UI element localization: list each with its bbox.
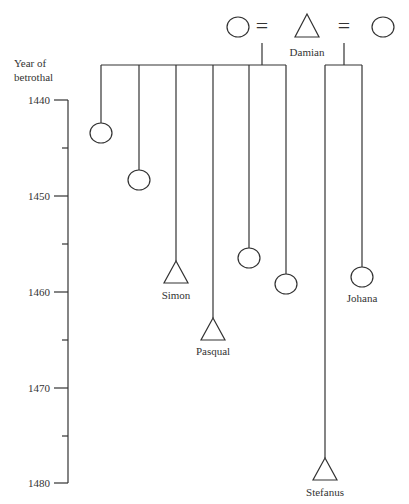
tick-label-1440: 1440 (28, 94, 51, 106)
daughter-circle-icon (275, 274, 297, 294)
tick-label-1450: 1450 (28, 190, 51, 202)
marriage-equals-sign-2: = (338, 13, 350, 38)
son-triangle-icon (164, 261, 188, 283)
daughter-circle-icon (238, 248, 260, 268)
axis-title-line2: betrothal (14, 71, 53, 83)
parents-row: = Damian = (227, 13, 394, 58)
first-wife-circle-icon (227, 17, 249, 37)
daughter-circle-icon (90, 123, 112, 143)
axis-title-line1: Year of (14, 57, 47, 69)
second-wife-circle-icon (372, 17, 394, 37)
daughter-circle-icon (128, 170, 150, 190)
father-label-damian: Damian (290, 46, 325, 58)
child-label-stefanus: Stefanus (306, 486, 344, 498)
first-marriage-sibship: Simon Pasqual (90, 43, 297, 357)
year-axis: Year of betrothal 1440 1450 1460 1470 14… (14, 57, 68, 489)
child-label-johana: Johana (347, 292, 378, 304)
child-label-simon: Simon (162, 289, 191, 301)
marriage-equals-sign-1: = (256, 13, 268, 38)
father-triangle-icon (295, 14, 319, 37)
kinship-diagram: Year of betrothal 1440 1450 1460 1470 14… (0, 0, 409, 504)
son-triangle-icon (201, 318, 225, 340)
child-label-pasqual: Pasqual (196, 345, 230, 357)
tick-label-1480: 1480 (28, 477, 51, 489)
tick-label-1460: 1460 (28, 286, 51, 298)
tick-label-1470: 1470 (28, 382, 51, 394)
son-triangle-icon (313, 458, 337, 480)
second-marriage-sibship: Stefanus Johana (306, 43, 377, 498)
daughter-circle-icon (351, 267, 373, 287)
